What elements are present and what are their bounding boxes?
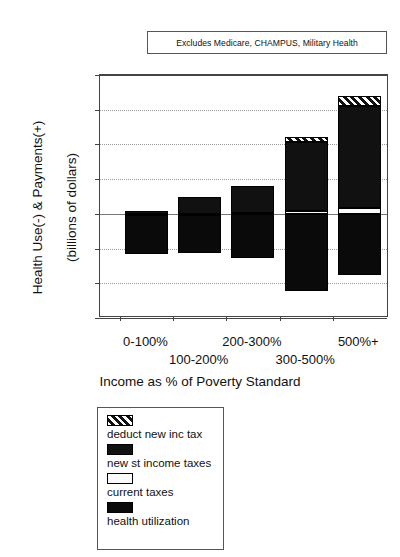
brick-joints xyxy=(339,107,380,207)
bar-group xyxy=(178,75,221,318)
bar-group xyxy=(338,75,381,318)
legend-label: health utilization xyxy=(107,516,223,528)
bar-segment-deduct-new-inc-tax xyxy=(338,96,381,106)
bar-segment-current-taxes xyxy=(178,214,221,216)
x-axis-category-label: 300-500% xyxy=(260,352,350,367)
bar-segment-health-utilization xyxy=(285,214,328,291)
x-axis-category-label: 0-100% xyxy=(101,334,191,349)
bar-group xyxy=(125,75,168,318)
legend-swatch-new-st-income-taxes xyxy=(107,444,133,455)
legend-swatch-health-utilization xyxy=(107,502,133,513)
x-tick-mark xyxy=(120,316,121,321)
x-tick-mark xyxy=(333,316,334,321)
plot-area: $8.0$6.0$4.0$2.0$0.0($2.0)($4.0)($6.0) xyxy=(99,74,388,317)
clipped-header-text xyxy=(60,0,360,4)
legend-label: new st income taxes xyxy=(107,458,223,470)
y-tick-mark xyxy=(95,179,100,180)
callout-note-text: Excludes Medicare, CHAMPUS, Military Hea… xyxy=(176,38,358,48)
x-tick-mark xyxy=(280,316,281,321)
brick-joints xyxy=(179,198,220,212)
legend-swatch-deduct-new-inc-tax xyxy=(107,415,133,426)
brick-joints xyxy=(232,187,273,212)
bar-segment-new-st-income-taxes xyxy=(338,106,381,208)
bar-segment-deduct-new-inc-tax xyxy=(285,137,328,141)
y-axis-title-line2: (billions of dollars) xyxy=(64,108,79,308)
y-tick-mark xyxy=(95,75,100,76)
y-tick-mark xyxy=(95,144,100,145)
bar-segment-current-taxes xyxy=(231,213,274,215)
y-tick-mark xyxy=(95,283,100,284)
bar-segment-new-st-income-taxes xyxy=(285,142,328,211)
legend-label: deduct new inc tax xyxy=(107,429,223,441)
x-axis-category-label: 500%+ xyxy=(313,334,400,349)
bar-segment-current-taxes xyxy=(338,208,381,214)
y-tick-mark xyxy=(95,249,100,250)
bar-segment-current-taxes xyxy=(285,211,328,214)
x-axis-category-label: 100-200% xyxy=(154,352,244,367)
chart-legend: deduct new inc taxnew st income taxescur… xyxy=(97,407,224,550)
brick-joints xyxy=(108,445,132,454)
y-axis-title-line1: Health Use(-) & Payments(+) xyxy=(30,108,45,308)
bar-group xyxy=(231,75,274,318)
x-axis-category-label: 200-300% xyxy=(207,334,297,349)
bar-segment-health-utilization xyxy=(231,214,274,258)
x-tick-mark xyxy=(226,316,227,321)
y-tick-mark xyxy=(95,214,100,215)
gridline-($6.0) xyxy=(100,318,387,319)
y-tick-mark xyxy=(95,110,100,111)
bar-segment-new-st-income-taxes xyxy=(178,197,221,213)
legend-swatch-current-taxes xyxy=(107,473,133,484)
bar-segment-new-st-income-taxes xyxy=(125,211,168,214)
bar-segment-health-utilization xyxy=(338,214,381,275)
bar-group xyxy=(285,75,328,318)
brick-joints xyxy=(126,212,167,213)
bar-segment-current-taxes xyxy=(125,214,168,216)
bar-segment-health-utilization xyxy=(125,214,168,254)
legend-label: current taxes xyxy=(107,487,223,499)
brick-joints xyxy=(286,143,327,210)
y-tick-mark xyxy=(95,318,100,319)
x-axis-title: Income as % of Poverty Standard xyxy=(0,374,400,389)
bar-segment-health-utilization xyxy=(178,214,221,253)
x-tick-mark xyxy=(173,316,174,321)
bar-segment-new-st-income-taxes xyxy=(231,186,274,213)
callout-note-box: Excludes Medicare, CHAMPUS, Military Hea… xyxy=(147,31,387,54)
